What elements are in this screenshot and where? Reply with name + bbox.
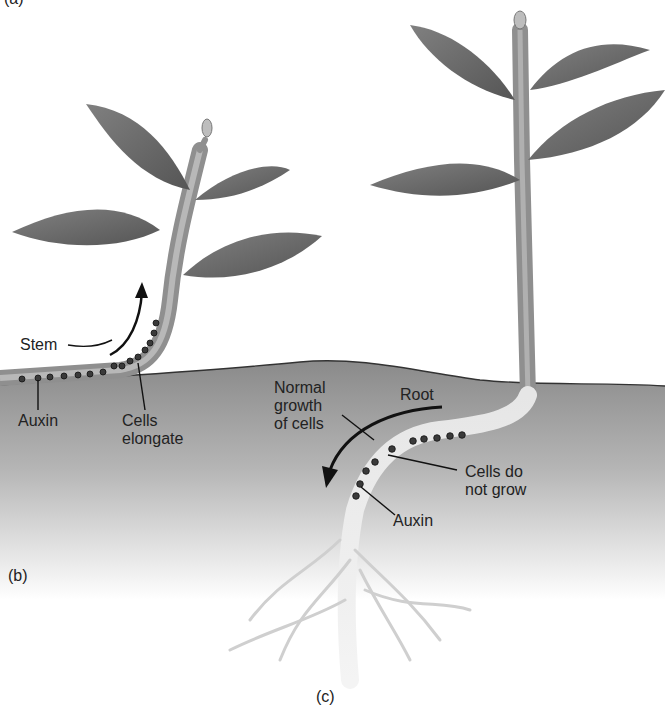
right-bud	[514, 11, 526, 29]
panel-label-c: (c)	[316, 688, 335, 706]
growth-arrow-up	[110, 292, 142, 355]
right-leaf	[410, 25, 515, 100]
root-label: Root	[400, 386, 434, 404]
left-leaf	[183, 232, 322, 277]
soil	[0, 361, 665, 600]
left-leaf	[86, 104, 190, 190]
normal-growth-label-2: growth	[274, 397, 322, 415]
right-leaf	[528, 90, 665, 160]
cells-elongate-label-1: Cells	[122, 412, 158, 430]
cells-do-not-grow-label-1: Cells do	[465, 463, 523, 481]
left-bud	[202, 119, 212, 137]
right-leaf	[370, 164, 520, 196]
left-leaf	[195, 166, 290, 200]
panel-label-a: (a)	[4, 0, 24, 8]
left-leaf	[12, 210, 160, 246]
normal-growth-label-1: Normal	[274, 379, 326, 397]
right-leaf	[530, 44, 650, 90]
cells-elongate-label-2: elongate	[122, 430, 183, 448]
right-auxin-label: Auxin	[393, 512, 433, 530]
cells-do-not-grow-label-2: not grow	[465, 481, 526, 499]
stem-label: Stem	[20, 336, 57, 354]
left-auxin-label: Auxin	[18, 412, 58, 430]
panel-label-b: (b)	[8, 567, 28, 585]
normal-growth-label-3: of cells	[274, 415, 324, 433]
